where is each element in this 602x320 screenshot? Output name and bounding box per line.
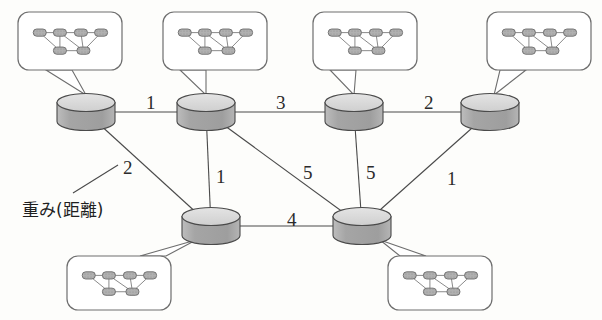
domain-node-6: [333, 208, 391, 245]
mini-node: [123, 272, 136, 279]
mini-node: [102, 272, 115, 279]
callout-node-4: [487, 12, 591, 95]
mini-node: [447, 288, 460, 295]
callout-bubble: [313, 12, 417, 70]
domain-node-4: [461, 94, 519, 131]
edge-weight-n5-n6: 4: [287, 210, 297, 229]
mini-node: [328, 29, 341, 36]
callout-tail: [140, 240, 196, 256]
callout-node-2: [163, 12, 267, 95]
mini-node: [348, 47, 361, 54]
edge-weight-n3-n6: 5: [366, 163, 376, 182]
cylinder-top: [177, 94, 235, 112]
network-diagram-svg: [0, 0, 602, 320]
cylinder-top: [325, 94, 383, 112]
mini-node: [77, 47, 90, 54]
edge-weight-n3-n4: 2: [424, 93, 434, 112]
domain-node-3: [325, 94, 383, 131]
mini-node: [444, 272, 457, 279]
mini-node: [53, 29, 66, 36]
callout-bubble: [487, 12, 591, 70]
mini-node: [390, 29, 403, 36]
mini-node: [502, 29, 515, 36]
callout-tail: [330, 70, 356, 95]
callout-bubble: [67, 256, 171, 310]
edge-weight-n1-n2: 1: [146, 93, 156, 112]
mini-node: [348, 29, 361, 36]
mini-node: [144, 272, 157, 279]
callout-tail: [180, 70, 206, 95]
mini-node: [95, 29, 108, 36]
callout-tail: [46, 70, 86, 95]
mini-node: [198, 47, 211, 54]
mini-node: [465, 272, 478, 279]
mini-node: [222, 47, 235, 54]
mini-node: [543, 29, 556, 36]
annotation-leader-line: [73, 165, 118, 193]
edge-n4-n6: [362, 112, 490, 226]
mini-node: [126, 288, 139, 295]
mini-node: [369, 29, 382, 36]
edge-weight-n2-n5: 1: [216, 167, 226, 186]
annotation-leader: [73, 165, 118, 193]
mini-node: [219, 29, 232, 36]
mini-node: [53, 47, 66, 54]
annotation-label-weight-distance: 重み(距離): [22, 196, 103, 221]
callout-node-3: [313, 12, 417, 95]
mini-node: [74, 29, 87, 36]
mini-node: [423, 272, 436, 279]
mini-node: [546, 47, 559, 54]
mini-node: [564, 29, 577, 36]
domain-node-5: [182, 208, 240, 245]
cylinder-top: [57, 94, 115, 112]
edge-weight-n1-n5: 2: [123, 158, 133, 177]
callout-bubble: [388, 256, 492, 310]
edge-weight-n2-n3: 3: [276, 93, 286, 112]
callouts-layer: [18, 12, 591, 310]
mini-node: [33, 29, 46, 36]
callout-node-6: [380, 240, 492, 310]
edge-weight-n2-n6: 5: [303, 163, 313, 182]
mini-node: [423, 288, 436, 295]
callout-tail: [380, 240, 426, 256]
domain-node-1: [57, 94, 115, 131]
cylinder-top: [182, 208, 240, 226]
mini-node: [198, 29, 211, 36]
cylinder-top: [333, 208, 391, 226]
cylinder-top: [461, 94, 519, 112]
mini-node: [522, 29, 535, 36]
edge-weight-n4-n6: 1: [447, 169, 457, 188]
domain-node-2: [177, 94, 235, 131]
mini-node: [522, 47, 535, 54]
callout-bubble: [18, 12, 122, 70]
mini-node: [102, 288, 115, 295]
callout-tail: [494, 70, 526, 95]
callout-node-5: [67, 240, 196, 310]
mini-node: [178, 29, 191, 36]
callout-node-1: [18, 12, 122, 95]
mini-node: [403, 272, 416, 279]
callout-bubble: [163, 12, 267, 70]
mini-node: [82, 272, 95, 279]
mini-node: [372, 47, 385, 54]
mini-node: [240, 29, 253, 36]
diagram-canvas: 132215514 重み(距離): [0, 0, 602, 320]
